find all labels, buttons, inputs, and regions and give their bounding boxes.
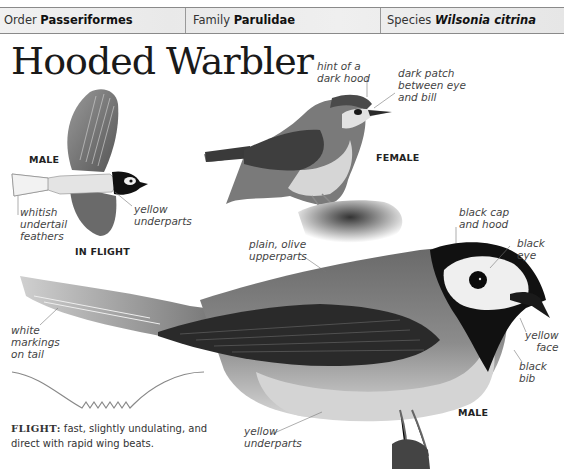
label-line: and bill xyxy=(398,91,466,103)
label-line: yellow xyxy=(244,425,302,437)
label-line: undertail xyxy=(20,218,67,230)
label-line: plain, olive xyxy=(249,238,307,250)
label-line: dark patch xyxy=(398,67,466,79)
label-line: black cap xyxy=(459,206,509,218)
dark-patch-label: dark patch between eye and bill xyxy=(398,67,466,103)
label-line: dark hood xyxy=(317,72,370,84)
hint-dark-hood-label: hint of a dark hood xyxy=(317,60,370,84)
flight-yellow-underparts-label: yellow underparts xyxy=(134,203,192,227)
black-cap-hood-label: black cap and hood xyxy=(459,206,509,230)
label-line: feathers xyxy=(20,230,67,242)
male-perched-caption: MALE xyxy=(458,407,488,418)
label-line: white xyxy=(11,324,60,336)
label-line: whitish xyxy=(20,206,67,218)
flight-male-caption: MALE xyxy=(29,154,59,165)
label-line: upperparts xyxy=(249,250,307,262)
label-line: face xyxy=(525,341,559,353)
label-line: on tail xyxy=(11,348,60,360)
flight-description: FLIGHT: fast, slightly undulating, and d… xyxy=(11,421,226,451)
bird-illustrations xyxy=(0,0,564,469)
label-line: yellow xyxy=(134,203,192,215)
label-line: between eye xyxy=(398,79,466,91)
female-bird-icon xyxy=(204,95,402,243)
flight-pattern-icon xyxy=(12,372,204,408)
whitish-undertail-label: whitish undertail feathers xyxy=(20,206,67,242)
black-bib-label: black bib xyxy=(519,360,564,384)
flight-heading: FLIGHT: xyxy=(11,423,61,434)
label-line: and hood xyxy=(459,218,509,230)
plain-olive-upperparts-label: plain, olive upperparts xyxy=(249,238,307,262)
label-line: underparts xyxy=(134,215,192,227)
label-line: markings xyxy=(11,336,60,348)
label-line: hint of a xyxy=(317,60,370,72)
white-tail-markings-label: white markings on tail xyxy=(11,324,60,360)
label-line: underparts xyxy=(244,437,302,449)
in-flight-caption: IN FLIGHT xyxy=(75,246,130,257)
yellow-face-label: yellow face xyxy=(525,329,559,353)
black-eye-label: black eye xyxy=(517,237,564,261)
female-caption: FEMALE xyxy=(376,152,420,163)
yellow-underparts-label: yellow underparts xyxy=(244,425,302,449)
label-line: yellow xyxy=(525,329,559,341)
